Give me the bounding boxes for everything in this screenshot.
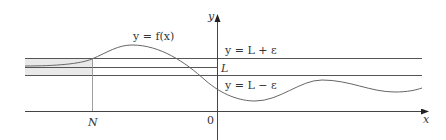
limit-label: L	[220, 62, 228, 75]
origin-label: 0	[207, 114, 214, 127]
x-axis-label: x	[423, 113, 430, 126]
n-label: N	[87, 116, 98, 129]
lower-line-label: y = L − ε	[224, 79, 277, 92]
curve-label: y = f(x)	[132, 30, 174, 43]
y-axis-arrow-icon	[215, 14, 221, 22]
upper-line-label: y = L + ε	[224, 44, 277, 57]
y-axis-label: y	[207, 10, 215, 23]
epsilon-band-shade	[25, 58, 92, 75]
limit-diagram: y = f(x) y = L + ε L y = L − ε y x 0 N	[0, 0, 446, 140]
